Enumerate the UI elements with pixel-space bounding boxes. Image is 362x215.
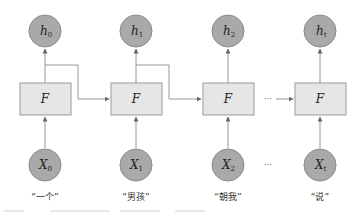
- word-label-t: “说”: [311, 191, 329, 202]
- rnn-diagram: h0 F X0 “一个” h1 F X1 “男孩” h2 F X2 “朝我” ·…: [0, 0, 362, 215]
- word-label-1: “男孩”: [122, 191, 149, 202]
- column-2: h2 F X2 “朝我”: [203, 15, 254, 202]
- cutoff-caption: [4, 210, 205, 212]
- function-label-t: F: [315, 92, 325, 106]
- word-label-0: “一个”: [31, 192, 58, 202]
- word-label-2: “朝我”: [214, 192, 241, 202]
- column-0: h0 F X0 “一个”: [20, 15, 109, 202]
- ellipsis-bottom: ···: [264, 160, 273, 170]
- function-label-1: F: [131, 92, 141, 106]
- ellipsis-middle: ···: [264, 94, 273, 104]
- column-1: h1 F X1 “男孩”: [111, 15, 201, 202]
- function-label-2: F: [223, 92, 233, 106]
- column-t: ht F Xt “说”: [295, 15, 346, 202]
- function-label-0: F: [40, 92, 50, 106]
